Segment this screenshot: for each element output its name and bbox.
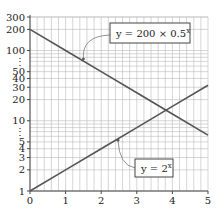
y-tick-label: 50	[12, 66, 25, 77]
y-tick-label: 300	[6, 12, 25, 23]
x-tick-label: 3	[134, 195, 140, 206]
x-tick-label: 4	[169, 195, 175, 206]
y-tick-ellipsis: ⋮	[15, 56, 25, 67]
x-tick-label: 2	[98, 195, 104, 206]
x-tick-label: 0	[27, 195, 33, 206]
chart: 01234512345⋮1020304050⋮100200300 y = 200…	[0, 0, 224, 217]
y-tick-label: 2	[19, 164, 25, 175]
series-line-decay	[30, 29, 208, 135]
y-tick-ellipsis: ⋮	[15, 126, 25, 137]
x-tick-label: 5	[205, 195, 211, 206]
y-tick-label: 200	[6, 24, 25, 35]
y-tick-label: 1	[19, 186, 25, 197]
annotation-arrowhead-growth	[117, 139, 120, 142]
annotations: y = 200 × 0.5x y = 2x	[82, 23, 190, 177]
annotation-leader-growth	[118, 140, 135, 168]
series-line-growth	[30, 85, 208, 191]
y-tick-label: 5	[19, 136, 25, 147]
annotation-arrowhead-decay	[82, 58, 85, 61]
y-tick-label: 20	[12, 94, 25, 105]
x-tick-label: 1	[62, 195, 68, 206]
annotation-label-growth: y = 2x	[140, 162, 172, 174]
y-tick-label: 100	[6, 45, 25, 56]
annotation-label-decay: y = 200 × 0.5x	[115, 27, 190, 39]
annotation-leader-decay	[83, 35, 110, 59]
y-tick-label: 10	[12, 115, 25, 126]
